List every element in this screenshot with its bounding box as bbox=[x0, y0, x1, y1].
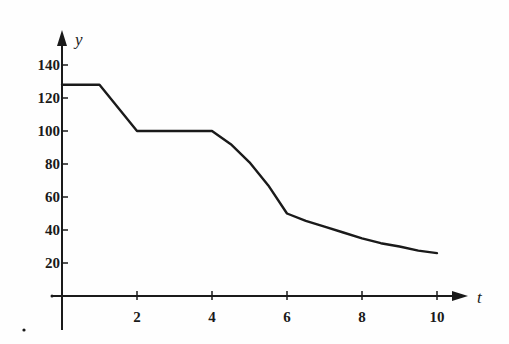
y-tick-label: 20 bbox=[45, 255, 60, 271]
line-chart: 24681020406080100120140 t y bbox=[0, 0, 509, 344]
y-axis-arrow-icon bbox=[57, 30, 67, 46]
x-tick-label: 6 bbox=[283, 309, 291, 325]
x-axis-arrow-icon bbox=[452, 291, 468, 301]
stray-dot bbox=[22, 328, 25, 331]
y-tick-label: 40 bbox=[45, 222, 60, 238]
y-tick-label: 100 bbox=[38, 123, 61, 139]
x-tick-label: 8 bbox=[358, 309, 366, 325]
y-axis-label: y bbox=[73, 30, 83, 49]
axis-dot bbox=[51, 295, 54, 298]
y-tick-label: 140 bbox=[38, 57, 61, 73]
y-tick-label: 80 bbox=[45, 156, 60, 172]
data-series bbox=[62, 85, 437, 253]
axis-ticks: 24681020406080100120140 bbox=[38, 57, 445, 325]
y-tick-label: 120 bbox=[38, 90, 61, 106]
axes bbox=[22, 30, 468, 332]
x-axis-label: t bbox=[477, 288, 483, 307]
x-tick-label: 10 bbox=[430, 309, 445, 325]
y-tick-label: 60 bbox=[45, 189, 60, 205]
series-line bbox=[62, 85, 437, 253]
x-tick-label: 4 bbox=[208, 309, 216, 325]
x-tick-label: 2 bbox=[133, 309, 141, 325]
chart-figure: 24681020406080100120140 t y bbox=[0, 0, 509, 344]
